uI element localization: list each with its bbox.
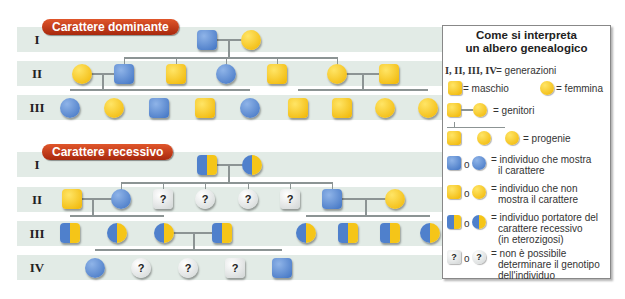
legend-affected-text: = individuo che mostra: [491, 154, 591, 165]
legend-parent-male-icon: [447, 103, 461, 117]
rec-III-female-carrier: [420, 223, 440, 243]
legend-affected-male-icon: [447, 156, 461, 170]
dom-III-male-affected: [149, 98, 169, 118]
legend-or: o: [464, 218, 470, 229]
dom-II-male-affected: [114, 64, 134, 84]
rec-II-female-unknown: ?: [195, 189, 215, 209]
legend-unaffected-female-icon: [472, 185, 486, 199]
dom-III-female-affected: [240, 98, 260, 118]
legend-unknown-text: determinare il genotipo: [498, 259, 600, 270]
legend-offspring-icon: [505, 131, 519, 145]
rec-IV-female-affected: [85, 258, 105, 278]
rec-I-male-carrier: [197, 155, 217, 175]
dom-II-male: [166, 64, 186, 84]
legend-female-icon: [540, 81, 554, 95]
legend-or: o: [464, 188, 470, 199]
legend-offspring-text: = progenie: [523, 133, 571, 144]
rec-II-male: [62, 189, 82, 209]
rec-III-male-carrier: [380, 223, 400, 243]
legend-title: Come si interpreta un albero genealogico: [443, 29, 610, 55]
legend-parent-female-icon: [473, 103, 487, 117]
rec-III-male-carrier: [60, 223, 80, 243]
rec-III-male-carrier: [338, 223, 358, 243]
dom-II-female-affected: [216, 64, 236, 84]
legend-title-line: Come si interpreta: [443, 29, 610, 42]
rec-II-male-unknown: ?: [280, 189, 300, 209]
descent-line: [362, 74, 364, 90]
dom-III-female-affected: [60, 98, 80, 118]
legend-generations-symbols: I, II, III, IV: [445, 65, 497, 76]
dom-III-female: [418, 98, 438, 118]
dom-II-male: [379, 64, 399, 84]
dom-II-female: [327, 64, 347, 84]
dom-III-male: [288, 98, 308, 118]
rec-III-female-carrier: [154, 223, 174, 243]
dom-III-female: [375, 98, 395, 118]
rec-II-male-unknown: ?: [153, 189, 173, 209]
dom-II-male: [267, 64, 287, 84]
legend-title-line: un albero genealogico: [443, 42, 610, 55]
legend-carrier-female-icon: [472, 215, 486, 229]
descent-line: [102, 74, 104, 90]
legend-offspring-icon: [447, 131, 461, 145]
rec-IV-male-unknown: ?: [225, 258, 245, 278]
sibship-line: [306, 215, 430, 217]
legend-female-text: = femmina: [556, 83, 603, 94]
rec-III-female-carrier: [107, 223, 127, 243]
legend-male-icon: [448, 81, 462, 95]
legend-unaffected-text: mostra il carattere: [498, 194, 578, 205]
legend-unknown-male-icon: ?: [447, 250, 461, 264]
legend-or: o: [464, 159, 470, 170]
legend-affected-female-icon: [472, 156, 486, 170]
sibship-line: [70, 89, 250, 91]
legend-unknown-text: = non è possibile: [491, 248, 566, 259]
rec-IV-male-affected: [272, 258, 292, 278]
gen-label-dominant-2: II: [17, 61, 57, 86]
sibship-line: [95, 249, 282, 251]
legend-box: Come si interpreta un albero genealogico…: [442, 25, 611, 279]
descent-line: [228, 165, 230, 183]
rec-II-female-unknown: ?: [238, 189, 258, 209]
rec-III-male-carrier: [212, 223, 232, 243]
legend-parents-text: = genitori: [493, 105, 534, 116]
sibship-line: [70, 215, 164, 217]
rec-III-female-carrier: [296, 223, 316, 243]
legend-affected-text: il carattere: [498, 165, 545, 176]
descent-line: [193, 233, 195, 250]
rec-II-male-affected: [322, 189, 342, 209]
legend-male-text: = maschio: [463, 83, 509, 94]
legend-carrier-text: = individuo portatore del: [491, 212, 598, 223]
dom-II-female: [72, 64, 92, 84]
rec-II-female-affected: [111, 189, 131, 209]
descent-line: [92, 199, 94, 216]
legend-unknown-text: dell'individuo: [498, 270, 555, 281]
gen-label-recessive-4: IV: [17, 255, 57, 280]
sibship-line: [124, 57, 338, 59]
legend-unaffected-male-icon: [447, 185, 461, 199]
legend-offspring-icon: [477, 131, 491, 145]
rec-I-female-carrier: [242, 155, 262, 175]
legend-mating-line: [461, 109, 473, 111]
rec-IV-female-unknown: ?: [131, 258, 151, 278]
dom-III-female: [104, 98, 124, 118]
sibship-line: [121, 182, 333, 184]
legend-generations-text: = generazioni: [496, 65, 556, 76]
dom-III-male: [332, 98, 352, 118]
dom-I-male-affected: [197, 30, 217, 50]
legend-unknown-female-icon: ?: [472, 250, 486, 264]
legend-carrier-male-icon: [447, 215, 461, 229]
legend-or: o: [464, 253, 470, 264]
recessive-title: Carattere recessivo: [42, 144, 173, 160]
legend-carrier-text: (in eterozigosi): [498, 234, 564, 245]
descent-line: [365, 199, 367, 216]
legend-sibship-line: [447, 127, 505, 128]
dominant-title: Carattere dominante: [42, 19, 179, 35]
legend-carrier-text: carattere recessivo: [498, 223, 582, 234]
gen-label-recessive-2: II: [17, 187, 57, 212]
rec-II-female: [385, 189, 405, 209]
dom-I-female: [241, 30, 261, 50]
legend-unaffected-text: = individuo che non: [491, 183, 577, 194]
dom-III-male: [195, 98, 215, 118]
rec-IV-female-unknown: ?: [178, 258, 198, 278]
gen-label-dominant-3: III: [17, 95, 57, 120]
